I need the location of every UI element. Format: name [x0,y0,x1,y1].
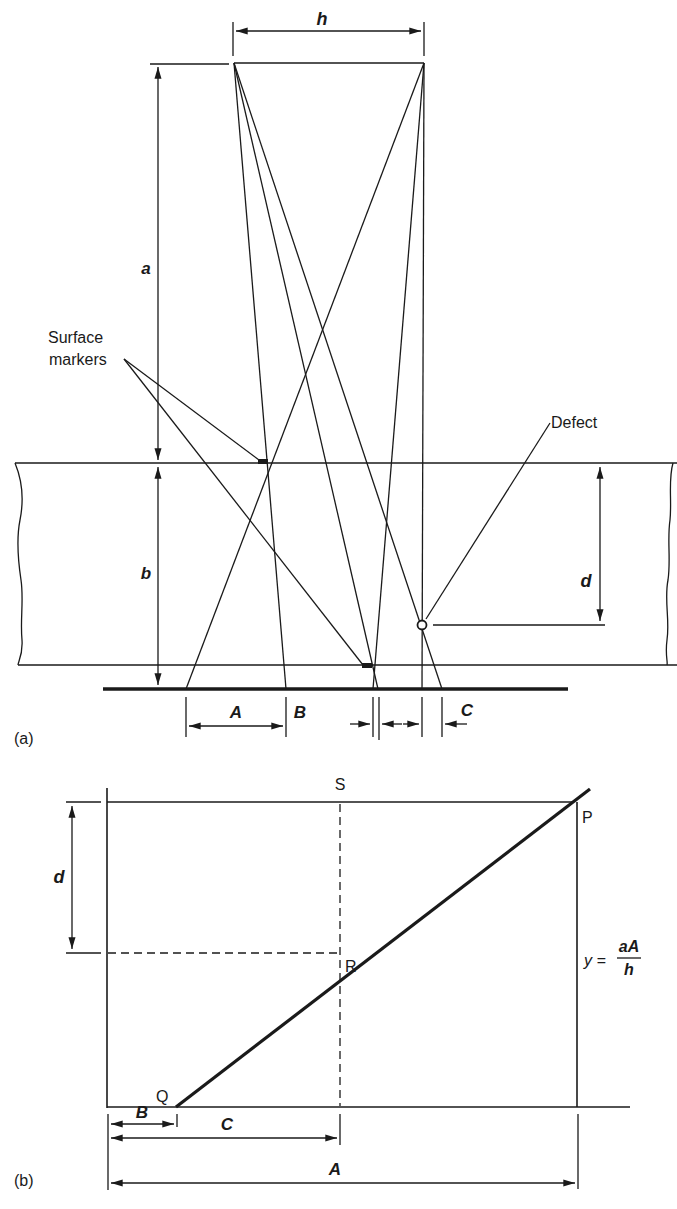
label-h: h [317,9,328,29]
panel-b: S P R Q d y = aA h B C A (b) [14,776,641,1190]
dimension-d-b [66,802,101,953]
label-d: d [581,571,593,591]
label-d-b: d [54,867,66,887]
label-film-C: C [461,701,474,720]
point-S: S [335,776,346,793]
label-C-b: C [221,1115,234,1134]
rays-left-source [234,63,442,689]
label-A-b: A [328,1160,341,1179]
label-markers: markers [49,351,107,368]
surface-markers-leaders [124,359,363,665]
point-R: R [345,958,357,975]
dimension-A-b: A [111,1114,578,1189]
point-Q: Q [156,1088,168,1105]
radiographic-depth-diagram: h a b d Surface markers Defect A B C (a)… [0,0,677,1209]
label-B-b: B [136,1103,148,1122]
formula-denominator: h [624,961,634,978]
specimen-left-break [15,463,22,665]
film-dimension-C [403,697,467,737]
surface-marker-bottom [362,663,372,668]
film-dimension-B [350,697,402,740]
specimen-right-break [666,463,673,665]
point-P: P [582,809,593,826]
formula-lhs: y = [583,952,606,969]
label-a: a [141,259,150,278]
dimension-d-a [433,467,605,625]
rays-right-source [186,63,424,689]
label-defect: Defect [551,414,598,431]
label-surface: Surface [48,329,103,346]
panel-b-label: (b) [14,1172,34,1189]
panel-a-label: (a) [14,730,34,747]
formula-y: y = aA h [583,938,641,978]
formula-numerator: aA [619,938,639,955]
defect-leader [426,423,550,619]
label-b: b [141,564,151,583]
label-film-B: B [294,703,306,722]
dimension-B-b: B [108,1103,177,1190]
dimension-h [233,22,424,56]
line-QP [176,789,590,1107]
label-film-A: A [229,703,242,722]
defect-marker [418,621,427,630]
panel-a: h a b d Surface markers Defect A B C (a) [14,9,677,747]
